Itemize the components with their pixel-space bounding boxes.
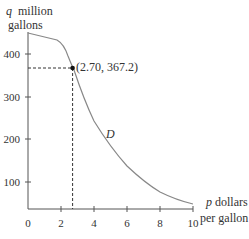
x-tick-label: 2 [58,217,64,229]
curve-label: D [105,127,115,141]
point-label: (2.70, 367.2) [76,60,138,74]
x-tick-label: 10 [188,217,200,229]
y-tick-label: 300 [4,91,21,103]
x-axis-label-line2: per gallon [200,211,248,225]
demand-curve [28,33,193,204]
equilibrium-point [70,66,75,71]
x-axis-label: pdollars [205,195,248,209]
y-tick-label: 400 [4,48,21,60]
x-tick-label: 4 [91,217,97,229]
demand-chart: 400 300 200 100 0 2 4 6 8 10 qmillion ga… [0,0,249,239]
x-tick-label: 0 [25,217,31,229]
y-tick-label: 200 [4,133,21,145]
x-tick-label: 6 [124,217,130,229]
y-axis-label: qmillion [6,4,53,18]
y-tick-label: 100 [4,176,21,188]
y-axis-label-line2: gallons [8,18,43,32]
x-tick-label: 8 [157,217,163,229]
